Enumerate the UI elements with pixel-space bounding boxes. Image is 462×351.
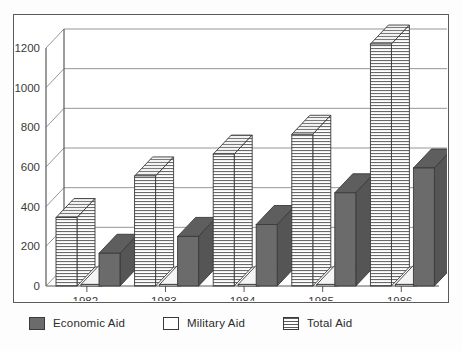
x-tick-label-1984: 1984 — [230, 295, 256, 301]
y-tick-label: 800 — [21, 121, 40, 133]
figure-container: 020040060080010001200 198219831984198519… — [0, 0, 462, 351]
x-tick-label-1982: 1982 — [73, 295, 99, 301]
legend-item-economic-aid: Economic Aid — [29, 317, 125, 330]
bars — [56, 25, 447, 286]
y-tick-label: 0 — [34, 280, 40, 292]
legend-label-economic-aid: Economic Aid — [53, 317, 125, 329]
x-tick-label-1986: 1986 — [387, 295, 413, 301]
bar-total — [135, 157, 174, 286]
y-tick-label: 1200 — [14, 42, 40, 54]
caption-strip — [0, 340, 462, 351]
bar-economic — [413, 149, 447, 286]
y-tick-label: 200 — [21, 240, 40, 252]
bar-total — [292, 115, 331, 286]
legend-swatch-military-aid — [163, 317, 179, 330]
bar-total — [56, 199, 95, 286]
y-tick-label: 400 — [21, 201, 40, 213]
bar-total — [370, 25, 409, 286]
legend-swatch-total-aid — [283, 317, 299, 330]
bar-economic — [335, 174, 374, 286]
x-axis-tick-labels: 19821983198419851986 — [73, 295, 413, 301]
x-tick-label-1983: 1983 — [151, 295, 177, 301]
bar-chart-plot: 020040060080010001200 198219831984198519… — [14, 15, 447, 301]
legend-swatch-economic-aid — [29, 317, 45, 330]
legend-label-military-aid: Military Aid — [187, 317, 245, 329]
y-tick-label: 1000 — [14, 82, 40, 94]
y-axis-tick-labels: 020040060080010001200 — [14, 42, 40, 292]
legend-label-total-aid: Total Aid — [307, 317, 352, 329]
bar-economic — [99, 234, 138, 286]
legend-item-total-aid: Total Aid — [283, 317, 352, 330]
y-tick-label: 600 — [21, 161, 40, 173]
legend-item-military-aid: Military Aid — [163, 317, 245, 330]
chart-frame: 020040060080010001200 198219831984198519… — [13, 14, 449, 303]
chart-legend: Economic Aid Military Aid Total Aid — [13, 312, 449, 334]
bar-total — [213, 135, 252, 286]
bar-economic — [256, 206, 295, 286]
x-tick-label-1985: 1985 — [308, 295, 334, 301]
